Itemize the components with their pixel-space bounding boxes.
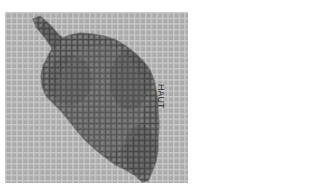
orientation-label: HAUT [156, 84, 166, 109]
